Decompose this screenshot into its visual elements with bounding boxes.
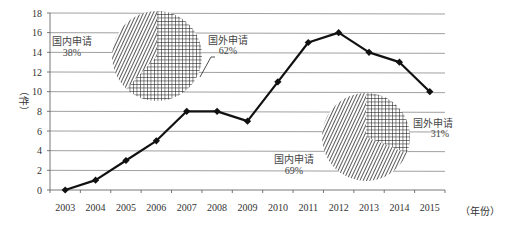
y-tick-label: 12 <box>32 67 42 78</box>
pie-2015: 国内申请 69% 国外申请 31% <box>274 93 453 181</box>
pie1-domestic-name: 国内申请 <box>52 35 92 47</box>
y-tick-label: 2 <box>37 165 42 176</box>
x-axis-unit-label: （年份） <box>460 205 500 217</box>
y-tick-label: 0 <box>37 185 42 196</box>
pie1-foreign-pct: 62% <box>219 45 237 56</box>
gridline <box>50 92 445 93</box>
x-axis: 2003200420052006200720082009201020112012… <box>50 190 445 213</box>
y-tick-label: 4 <box>37 145 42 156</box>
y-axis-unit-label: （件） <box>18 86 29 116</box>
x-tick-label: 2009 <box>238 202 258 213</box>
x-tick-label: 2011 <box>298 202 318 213</box>
data-point-marker <box>214 108 221 115</box>
pie1-leader-line <box>200 57 215 77</box>
x-tick-label: 2013 <box>359 202 379 213</box>
pie2-foreign-pct: 31% <box>431 128 449 139</box>
x-tick-label: 2015 <box>420 202 440 213</box>
x-tick-label: 2005 <box>116 202 136 213</box>
gridline <box>50 72 445 73</box>
gridline <box>50 13 445 14</box>
y-axis: 024681012141618 <box>32 8 50 196</box>
pie1-domestic-pct: 38% <box>63 47 81 58</box>
inset-pies: 国内申请 38% 国外申请 62% 国内申请 69% 国外申请 31% <box>52 11 453 181</box>
y-tick-label: 6 <box>37 126 42 137</box>
y-tick-label: 18 <box>32 8 42 19</box>
x-tick-label: 2010 <box>268 202 288 213</box>
x-tick-label: 2014 <box>389 202 409 213</box>
pie2-domestic-pct: 69% <box>285 165 303 176</box>
data-point-marker <box>62 186 69 193</box>
x-tick-label: 2008 <box>207 202 227 213</box>
y-tick-label: 8 <box>37 106 42 117</box>
y-tick-label: 16 <box>32 27 42 38</box>
pie2-domestic-name: 国内申请 <box>274 153 314 165</box>
patent-application-chart: 024681012141618 200320042005200620072008… <box>0 0 510 227</box>
x-tick-label: 2004 <box>86 202 106 213</box>
x-tick-label: 2003 <box>55 202 75 213</box>
y-tick-label: 10 <box>32 86 42 97</box>
x-tick-label: 2012 <box>329 202 349 213</box>
x-tick-label: 2007 <box>177 202 197 213</box>
x-tick-label: 2006 <box>146 202 166 213</box>
pie-2003: 国内申请 38% 国外申请 62% <box>52 11 248 101</box>
gridline <box>50 33 445 34</box>
y-tick-label: 14 <box>32 47 42 58</box>
gridline <box>50 52 445 53</box>
